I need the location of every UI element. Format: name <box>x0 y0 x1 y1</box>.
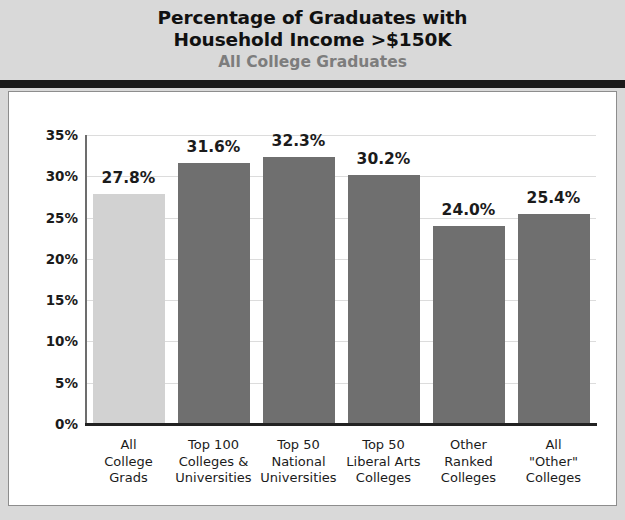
chart-title-line-2: Household Income >$150K <box>0 29 625 51</box>
x-axis-tick-label-line: Colleges <box>496 470 612 487</box>
chart-header: Percentage of Graduates with Household I… <box>0 0 625 80</box>
chart-title-line-1: Percentage of Graduates with <box>0 7 625 29</box>
bar <box>518 214 590 424</box>
y-axis-tick-label: 15% <box>6 292 78 308</box>
y-axis-tick-label: 20% <box>6 251 78 267</box>
x-axis-tick-label-line: All <box>496 437 612 454</box>
bar <box>178 163 250 424</box>
chart-subtitle: All College Graduates <box>0 52 625 73</box>
bar-value-label: 32.3% <box>239 132 359 150</box>
x-axis-baseline <box>85 423 597 426</box>
bar <box>263 157 335 424</box>
y-axis-tick-label: 0% <box>6 416 78 432</box>
y-axis-tick-label: 25% <box>6 210 78 226</box>
bar-value-label: 30.2% <box>324 150 444 168</box>
y-axis-tick-label: 35% <box>6 127 78 143</box>
header-divider-rule <box>0 80 625 88</box>
x-axis-tick-label: All"Other"Colleges <box>496 437 612 487</box>
chart-figure: Percentage of Graduates with Household I… <box>0 0 625 520</box>
y-axis-tick-labels: 35%30%25%20%15%10%5%0% <box>0 0 78 520</box>
bar <box>433 226 505 424</box>
y-axis-tick-label: 5% <box>6 375 78 391</box>
y-axis-tick-label: 10% <box>6 333 78 349</box>
y-axis-tick-label: 30% <box>6 168 78 184</box>
bar-value-label: 27.8% <box>69 169 189 187</box>
bar-value-label: 25.4% <box>494 189 614 207</box>
x-axis-tick-label-line: "Other" <box>496 454 612 471</box>
bar <box>93 194 165 424</box>
